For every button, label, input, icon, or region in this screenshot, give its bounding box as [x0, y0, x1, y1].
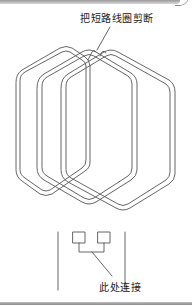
- coil-diagram: [0, 0, 192, 305]
- coil-right: [61, 50, 175, 210]
- leader-line-top: [97, 27, 110, 50]
- terminal-box-left: [73, 232, 85, 243]
- terminal-box-right: [98, 232, 110, 243]
- leader-line-bottom: [92, 252, 112, 276]
- annotation-connect-here: 此处连接: [99, 279, 141, 294]
- connection-bracket: [79, 243, 104, 252]
- coil-middle: [37, 50, 137, 204]
